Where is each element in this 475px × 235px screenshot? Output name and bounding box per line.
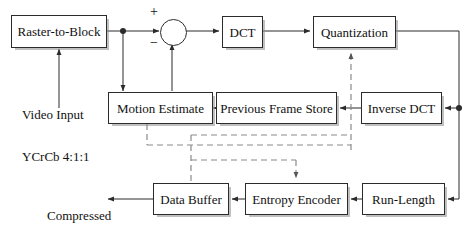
summing-junction-circle	[160, 19, 187, 46]
label-video-input-line1: Video Input	[22, 108, 90, 122]
block-motion-estimate[interactable]: Motion Estimate	[108, 92, 213, 124]
label-video-input: Video Input YCrCb 4:1:1	[22, 80, 90, 192]
block-previous-frame-store[interactable]: Previous Frame Store	[216, 92, 337, 124]
block-raster-to-block[interactable]: Raster-to-Block	[11, 15, 107, 48]
block-quantization[interactable]: Quantization	[313, 16, 396, 48]
block-data-buffer[interactable]: Data Buffer	[153, 183, 229, 215]
block-entropy-encoder[interactable]: Entropy Encoder	[245, 183, 348, 215]
block-dct[interactable]: DCT	[222, 16, 263, 48]
diagram-canvas: Raster-to-Block DCT Quantization Motion …	[0, 0, 475, 235]
block-inverse-dct[interactable]: Inverse DCT	[361, 92, 442, 124]
adder-plus-sign: +	[150, 5, 158, 19]
label-compressed-video-signal: Compressed Video Signal	[47, 181, 114, 235]
adder-minus-sign: −	[150, 36, 158, 50]
label-video-input-line2: YCrCb 4:1:1	[22, 150, 90, 164]
block-run-length[interactable]: Run-Length	[362, 183, 445, 215]
label-compressed-line1: Compressed	[47, 209, 114, 223]
